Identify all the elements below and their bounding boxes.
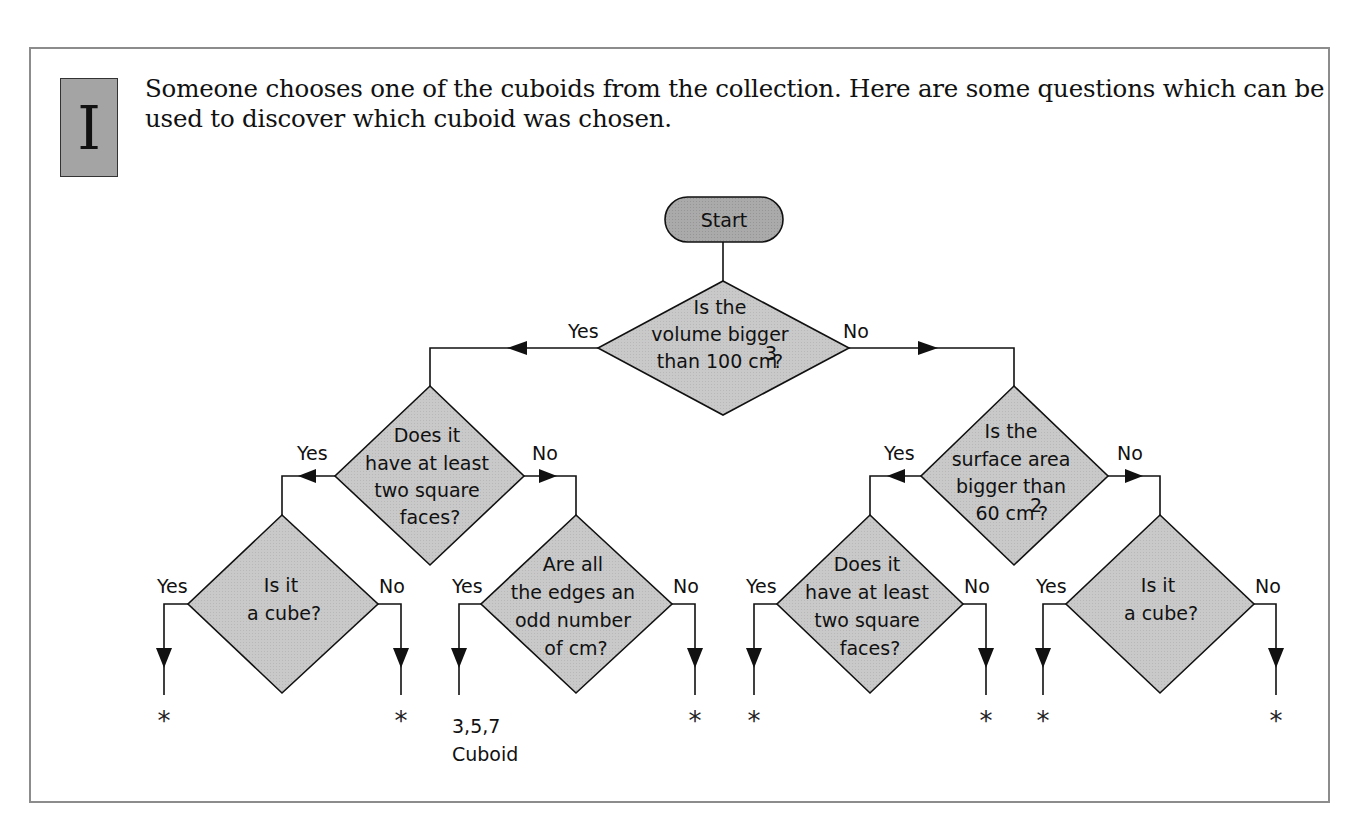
arrow-right-icon: [918, 341, 938, 355]
arrow-right-icon: [1125, 469, 1143, 483]
decision-is-cube-right: Is it a cube?: [1066, 515, 1254, 693]
arrow-left-icon: [298, 469, 316, 483]
arrow-down-icon: [746, 648, 762, 668]
svg-text:?: ?: [773, 350, 783, 372]
result-placeholder: *: [980, 706, 993, 736]
edge-label-no: No: [1255, 575, 1281, 597]
result-placeholder: *: [395, 706, 408, 736]
start-label: Start: [701, 209, 747, 231]
edge-label-yes: Yes: [883, 442, 915, 464]
arrow-down-icon: [451, 648, 467, 668]
edge-label-no: No: [964, 575, 990, 597]
decision-square-faces: Does it have at least two square faces?: [335, 386, 524, 565]
arrow-left-icon: [507, 341, 527, 355]
start-node: Start: [665, 197, 783, 242]
decision-odd-edges: Are all the edges an odd number of cm?: [481, 515, 672, 693]
decision-is-cube-left: Is it a cube?: [188, 515, 378, 693]
edge-label-yes: Yes: [156, 575, 188, 597]
arrow-left-icon: [887, 469, 905, 483]
edge-label-no: No: [673, 575, 699, 597]
edge-label-yes: Yes: [567, 320, 599, 342]
result-cuboid: Cuboid: [452, 743, 518, 765]
edge-label-no: No: [379, 575, 405, 597]
edge-label-no: No: [532, 442, 558, 464]
svg-text:?: ?: [1038, 502, 1048, 524]
arrow-down-icon: [393, 648, 409, 668]
arrow-down-icon: [978, 648, 994, 668]
result-placeholder: *: [1037, 706, 1050, 736]
result-placeholder: *: [158, 706, 171, 736]
edge-label-yes: Yes: [296, 442, 328, 464]
arrow-down-icon: [1268, 648, 1284, 668]
decision-square-faces-right: Does it have at least two square faces?: [777, 515, 963, 693]
result-placeholder: *: [748, 706, 761, 736]
decision-volume: Is the volume bigger than 100 cm 3 ?: [598, 281, 849, 415]
arrow-down-icon: [156, 648, 172, 668]
arrow-down-icon: [1035, 648, 1051, 668]
result-dimensions: 3,5,7: [452, 715, 500, 737]
edge-label-yes: Yes: [745, 575, 777, 597]
edge-label-yes: Yes: [451, 575, 483, 597]
edge-label-no: No: [843, 320, 869, 342]
arrow-down-icon: [687, 648, 703, 668]
flowchart: Start Is the volume bigger than 100 cm 3…: [0, 0, 1363, 834]
result-placeholder: *: [1270, 706, 1283, 736]
decision-surface-area: Is the surface area bigger than 60 cm 2 …: [921, 386, 1108, 565]
arrow-right-icon: [539, 469, 557, 483]
edge-label-no: No: [1117, 442, 1143, 464]
result-placeholder: *: [689, 706, 702, 736]
edge-label-yes: Yes: [1035, 575, 1067, 597]
